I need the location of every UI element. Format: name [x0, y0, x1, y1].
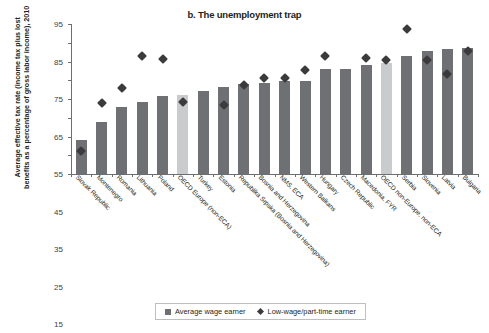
x-axis-label: Lithuania: [136, 174, 159, 197]
x-axis-label-group: Slovak RepublicMontenegroRomaniaLithuani…: [71, 176, 478, 286]
bar: [96, 122, 107, 175]
data-point-marker: [361, 53, 371, 63]
bar: [462, 48, 473, 174]
y-tick-label: 35: [54, 245, 63, 254]
x-axis-label: Macedonia, FYR: [360, 174, 399, 213]
bar: [422, 51, 433, 174]
y-tick-label: 75: [54, 95, 63, 104]
y-tick-mark: 25: [68, 155, 71, 156]
data-point-marker: [97, 98, 107, 108]
bar: [279, 81, 290, 174]
chart-legend: Average wage earnerLow-wage/part-time ea…: [155, 303, 366, 320]
y-axis-line: [71, 24, 72, 174]
x-axis-label: Serbia: [400, 174, 418, 192]
bar: [198, 91, 209, 174]
y-tick-label: 15: [54, 320, 63, 329]
data-point-marker: [300, 65, 310, 75]
y-tick-label: 25: [54, 282, 63, 291]
data-point-marker: [117, 83, 127, 93]
bar: [381, 63, 392, 174]
y-tick-mark: 75: [68, 62, 71, 63]
data-point-marker: [137, 51, 147, 61]
bar: [259, 83, 270, 174]
data-point-marker: [320, 51, 330, 61]
bar: [361, 65, 372, 174]
y-axis-title: Average effective tax rate (income tax p…: [13, 3, 32, 191]
y-tick-label: 55: [54, 170, 63, 179]
y-tick-label: 95: [54, 20, 63, 29]
x-axis-label: Latvia: [441, 174, 458, 191]
legend-label: Low-wage/part-time earner: [268, 307, 356, 316]
y-tick-label: 65: [54, 132, 63, 141]
bar: [157, 96, 168, 174]
bar: [320, 69, 331, 174]
x-tick-mark: [478, 174, 479, 177]
x-axis-label: Western Balkans: [299, 174, 338, 213]
legend-entry: Average wage earner: [165, 307, 246, 316]
x-axis-label: Bulgaria: [461, 174, 483, 196]
data-point-marker: [259, 73, 269, 83]
bar: [300, 81, 311, 174]
legend-label: Average wage earner: [175, 307, 246, 316]
y-tick-mark: 55: [68, 99, 71, 100]
chart-figure: b. The unemployment trap Average effecti…: [0, 0, 489, 333]
y-tick-mark: 95: [68, 24, 71, 25]
bar: [340, 69, 351, 174]
y-tick-mark: 45: [68, 118, 71, 119]
legend-entry: Low-wage/part-time earner: [257, 307, 356, 316]
bar: [116, 107, 127, 175]
legend-diamond-icon: [257, 308, 264, 315]
chart-title: b. The unemployment trap: [0, 9, 489, 20]
y-tick-mark: 85: [68, 43, 71, 44]
data-point-marker: [402, 24, 412, 34]
bar: [238, 84, 249, 174]
legend-square-icon: [165, 309, 171, 315]
bar: [442, 49, 453, 174]
bar: [177, 95, 188, 174]
plot-area: 152535455565758595: [71, 24, 478, 174]
y-tick-mark: 65: [68, 80, 71, 81]
bar: [401, 56, 412, 174]
bar: [137, 102, 148, 174]
data-point-marker: [158, 54, 168, 64]
y-tick-label: 85: [54, 57, 63, 66]
y-tick-mark: 35: [68, 137, 71, 138]
x-axis-label: Turkey: [197, 174, 216, 193]
x-axis-label: Slovenia: [421, 174, 443, 196]
x-axis-label: Estonia: [217, 174, 237, 194]
y-tick-label: 45: [54, 207, 63, 216]
x-axis-label: Poland: [156, 174, 175, 193]
